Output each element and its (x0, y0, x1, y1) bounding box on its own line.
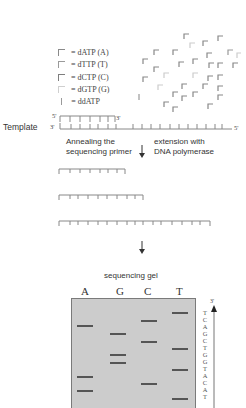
gel-band-g (110, 362, 126, 364)
gel-band-g (110, 333, 126, 335)
lane-label-a: A (81, 285, 89, 297)
gel-band-c (141, 341, 157, 343)
fragment-1 (59, 169, 125, 174)
down-arrow-icon (137, 145, 147, 159)
gel-title: sequencing gel (104, 271, 158, 280)
extension-label: extension with DNA polymerase (154, 137, 214, 157)
gel-band-t (172, 398, 188, 400)
gel-band-g (110, 354, 126, 356)
gel-band-c (141, 383, 157, 385)
gel-band-c (141, 320, 157, 322)
fragment-2 (59, 195, 143, 200)
gel-band-a (77, 390, 93, 392)
read-direction-arrow-icon (209, 304, 219, 408)
gel-band-a (77, 325, 93, 327)
annealing-label: Annealing the sequencing primer (66, 137, 132, 157)
gel-band-a (77, 376, 93, 378)
gel-band-t (172, 312, 188, 314)
gel-band-t (172, 369, 188, 371)
lane-label-c: C (144, 285, 151, 297)
lane-label-t: T (176, 285, 183, 297)
extended-fragments (0, 160, 246, 235)
template-strand (0, 108, 246, 138)
down-arrow-icon (137, 241, 147, 255)
lane-label-g: G (116, 285, 124, 297)
gel-band-t (172, 348, 188, 350)
